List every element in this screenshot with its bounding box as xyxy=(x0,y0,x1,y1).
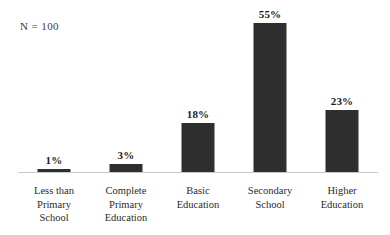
bar xyxy=(110,164,143,172)
x-axis-label-complete-primary-education: CompletePrimaryEducation xyxy=(87,184,165,225)
bar-group-basic-education: 18% xyxy=(162,10,234,172)
bar xyxy=(182,123,215,172)
x-axis-label-higher-education: HigherEducation xyxy=(303,184,381,211)
plot-area: 1% 3% 18% 55% 23% xyxy=(18,10,378,172)
x-axis-label-line: Education xyxy=(159,198,237,212)
bar-group-higher-education: 23% xyxy=(306,10,378,172)
bar-value-label: 23% xyxy=(331,95,354,107)
x-axis-label-line: Secondary xyxy=(231,184,309,198)
x-axis-label-secondary-school: SecondarySchool xyxy=(231,184,309,211)
bar-group-less-than-primary-school: 1% xyxy=(18,10,90,172)
x-axis-label-basic-education: BasicEducation xyxy=(159,184,237,211)
bar-value-label: 3% xyxy=(118,149,135,161)
bar-chart: N = 100 1% 3% 18% 55% 23% Less thanPrima… xyxy=(0,0,390,235)
bar-value-label: 18% xyxy=(187,108,210,120)
bar-group-complete-primary-education: 3% xyxy=(90,10,162,172)
bar-value-label: 55% xyxy=(259,8,282,20)
x-axis-label-line: Primary xyxy=(87,198,165,212)
x-axis-label-less-than-primary-school: Less thanPrimarySchool xyxy=(15,184,93,225)
x-axis-label-line: School xyxy=(231,198,309,212)
x-axis-label-line: Less than xyxy=(15,184,93,198)
x-axis-label-line: Higher xyxy=(303,184,381,198)
x-axis-label-line: Education xyxy=(303,198,381,212)
x-axis-label-line: Complete xyxy=(87,184,165,198)
bar xyxy=(326,110,359,172)
x-axis-label-line: Education xyxy=(87,211,165,225)
x-axis-line xyxy=(18,172,378,173)
x-axis-label-line: Primary xyxy=(15,198,93,212)
bar-value-label: 1% xyxy=(46,154,63,166)
bar-group-secondary-school: 55% xyxy=(234,10,306,172)
bar xyxy=(254,23,287,172)
x-axis-label-line: Basic xyxy=(159,184,237,198)
x-axis-label-line: School xyxy=(15,211,93,225)
